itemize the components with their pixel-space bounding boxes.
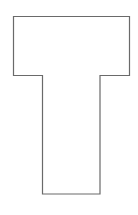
diagram-canvas: [0, 0, 138, 215]
